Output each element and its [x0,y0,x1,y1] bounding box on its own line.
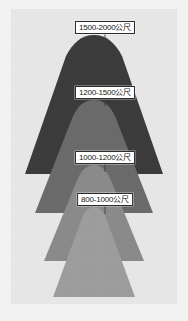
zone-label-800-1000: 800-1000公尺 [77,193,133,206]
zone-label-1000-1200: 1000-1200公尺 [75,151,135,164]
zone-label-1200-1500: 1200-1500公尺 [75,86,135,99]
elevation-zone-figure: 1500-2000公尺 1200-1500公尺 1000-1200公尺 800-… [0,0,188,321]
zone-label-1500-2000: 1500-2000公尺 [75,21,135,34]
band-shape-800-1000 [53,207,135,297]
